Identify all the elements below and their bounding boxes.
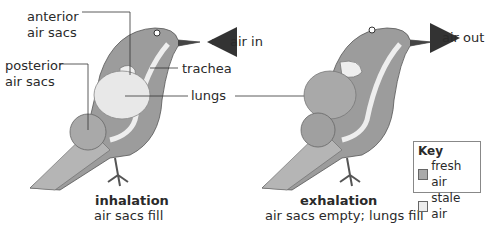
key-item-label: fresh air: [431, 158, 476, 190]
key-item-stale-air: stale air: [418, 190, 476, 222]
label-lungs: lungs: [191, 88, 226, 103]
label-air-out: air out: [442, 30, 484, 45]
inhalation-caption-sub: air sacs fill: [94, 208, 163, 223]
exhalation-caption-sub: air sacs empty; lungs fill: [265, 208, 424, 223]
label-posterior: posterior: [5, 58, 63, 73]
label-anterior: anterior: [27, 9, 79, 24]
label-air-in: air in: [230, 34, 263, 49]
label-posterior-air-sacs: air sacs: [5, 74, 55, 89]
label-anterior-air-sacs: air sacs: [27, 25, 77, 40]
label-trachea: trachea: [182, 61, 232, 76]
key-item-label: stale air: [431, 190, 476, 222]
exhalation-caption-title: exhalation: [300, 193, 377, 208]
stale-air-swatch-icon: [418, 201, 428, 212]
fresh-air-swatch-icon: [418, 169, 428, 180]
inhalation-caption-title: inhalation: [95, 193, 169, 208]
legend-key: Key fresh air stale air: [413, 141, 481, 193]
key-title: Key: [418, 144, 476, 158]
key-item-fresh-air: fresh air: [418, 158, 476, 190]
